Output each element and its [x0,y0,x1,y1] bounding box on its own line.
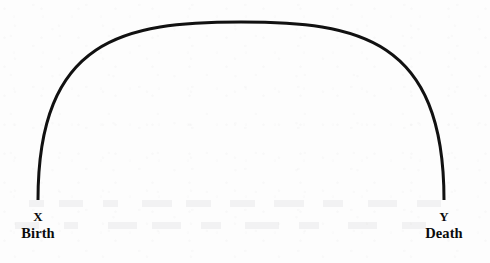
endpoint-caption-death: Death [406,226,482,241]
semicircular-arc-path [38,22,444,200]
figure-canvas: X Birth Y Death [0,0,490,263]
endpoint-label-right: Y Death [406,210,482,241]
endpoint-letter-x: X [0,210,76,223]
endpoint-label-left: X Birth [0,210,76,241]
endpoint-caption-birth: Birth [0,226,76,241]
endpoint-letter-y: Y [406,210,482,223]
